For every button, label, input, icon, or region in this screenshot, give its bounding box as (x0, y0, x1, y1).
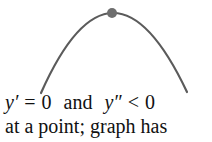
derivative-second-variable: y (104, 91, 113, 113)
caption: y′=0andy″<0 at a point; graph has (0, 90, 212, 138)
zero-value-second: 0 (145, 91, 155, 113)
less-than-sign: < (128, 91, 139, 113)
prime-single-icon: ′ (14, 91, 18, 113)
maximum-point-marker (107, 8, 117, 18)
calculus-figure: y′=0andy″<0 at a point; graph has (0, 0, 212, 142)
prime-double-icon: ″ (113, 91, 121, 113)
curve-svg (0, 0, 212, 95)
zero-value-first: 0 (42, 91, 52, 113)
equals-sign: = (24, 91, 35, 113)
graph-area (0, 0, 212, 95)
parabola-curve (41, 13, 187, 93)
caption-line-2: at a point; graph has (0, 114, 212, 138)
caption-line-1: y′=0andy″<0 (0, 90, 212, 114)
derivative-first-variable: y (5, 91, 14, 113)
conjunction-and: and (64, 91, 93, 113)
